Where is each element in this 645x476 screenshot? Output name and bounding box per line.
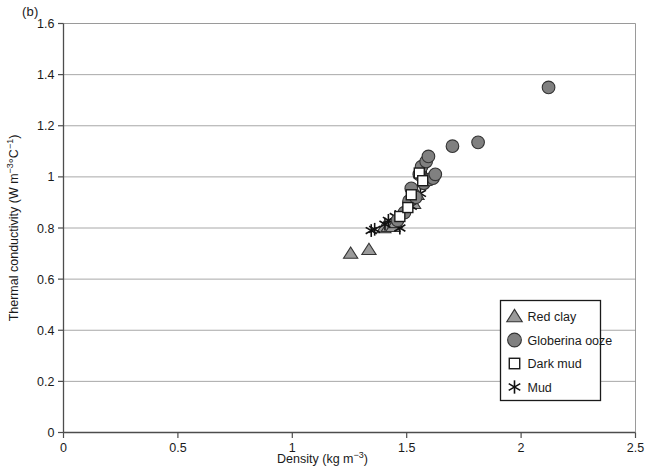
y-tick-label: 1 (48, 170, 55, 184)
data-point-circle (472, 136, 485, 149)
x-axis-label: Density (kg m−3) (0, 452, 645, 466)
legend-label: Red clay (528, 310, 577, 324)
data-point-circle (429, 168, 442, 181)
y-axis-label: Thermal conductivity (W m−3°C−1) (7, 135, 21, 322)
scatter-plot: 00.20.40.60.811.21.41.600.511.522.5Red c… (0, 0, 645, 476)
y-tick-label: 0.4 (37, 324, 54, 338)
data-point-triangle (344, 247, 358, 258)
figure-panel-b: (b) 00.20.40.60.811.21.41.600.511.522.5R… (0, 0, 645, 476)
legend-item-dark-mud[interactable]: Dark mud (509, 357, 581, 371)
legend-item-mud[interactable]: Mud (509, 380, 552, 394)
legend-label: Globerina ooze (528, 334, 613, 348)
data-point-square (403, 203, 413, 213)
legend-marker-square (509, 358, 519, 368)
y-tick-label: 1.4 (37, 68, 54, 82)
data-point-square (418, 176, 428, 186)
data-point-circle (446, 140, 459, 153)
legend-marker-circle (508, 333, 522, 347)
data-point-triangle (362, 243, 376, 254)
legend: Red clayGloberina oozeDark mudMud (501, 301, 613, 401)
legend-label: Mud (528, 381, 552, 395)
data-points (344, 81, 555, 258)
legend-label: Dark mud (528, 357, 582, 371)
y-tick-label: 1.6 (37, 17, 54, 31)
data-point-circle (542, 81, 555, 94)
y-tick-label: 0.2 (37, 375, 54, 389)
y-tick-label: 0.8 (37, 222, 54, 236)
y-tick-label: 1.2 (37, 119, 54, 133)
data-point-square (406, 190, 416, 200)
y-tick-label: 0 (48, 426, 55, 440)
data-point-circle (422, 150, 435, 163)
y-tick-label: 0.6 (37, 273, 54, 287)
